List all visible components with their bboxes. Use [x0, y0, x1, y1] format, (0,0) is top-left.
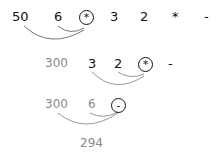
- arc-row2-outer: [92, 72, 144, 85]
- row1-token-5: *: [172, 10, 179, 23]
- result-value: 294: [80, 137, 103, 150]
- row1-operator-highlighted: *: [79, 10, 94, 25]
- row3-token-0: 300: [45, 98, 68, 111]
- arc-row2-inner: [118, 72, 144, 77]
- row2-token-2: 2: [114, 57, 122, 70]
- row1-token-4: 2: [140, 10, 148, 23]
- row1-token-3: 3: [110, 10, 118, 23]
- row2-operator-highlighted: *: [138, 57, 153, 72]
- row2-token-0: 300: [45, 57, 68, 70]
- row1-token-6: -: [204, 10, 209, 23]
- arc-row1-outer: [24, 26, 84, 39]
- arc-row3-outer: [58, 113, 118, 124]
- row1-token-0: 50: [12, 10, 29, 23]
- row2-token-1: 3: [88, 57, 96, 70]
- row3-operator-highlighted: -: [111, 98, 126, 113]
- row1-token-1: 6: [54, 10, 62, 23]
- arc-row1-inner: [58, 26, 84, 32]
- row2-token-4: -: [168, 57, 173, 70]
- row3-token-1: 6: [88, 98, 96, 111]
